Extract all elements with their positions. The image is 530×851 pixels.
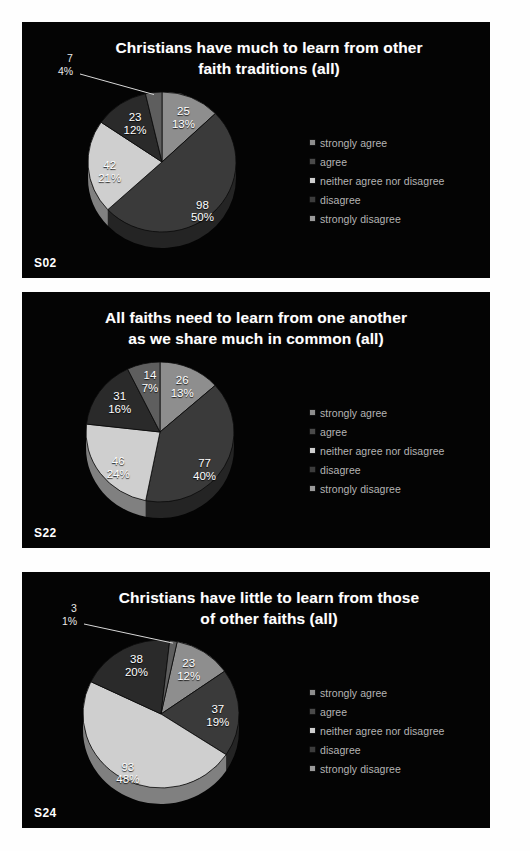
pie-label-percent: 12% bbox=[171, 670, 207, 683]
legend-item-agree[interactable]: agree bbox=[310, 152, 444, 171]
pie-label-percent: 12% bbox=[117, 124, 153, 137]
pie-label-percent: 16% bbox=[102, 403, 138, 416]
legend-item-neither[interactable]: neither agree nor disagree bbox=[310, 171, 444, 190]
slide-title-line-1: Christians have much to learn from other bbox=[48, 38, 490, 59]
legend-item-strongly-agree[interactable]: strongly agree bbox=[310, 133, 444, 152]
slide-id-badge: S02 bbox=[34, 256, 57, 270]
pie-label-count: 26 bbox=[164, 374, 200, 387]
legend-label: neither agree nor disagree bbox=[320, 725, 444, 737]
legend-item-neither[interactable]: neither agree nor disagree bbox=[310, 721, 444, 740]
legend-item-neither[interactable]: neither agree nor disagree bbox=[310, 441, 444, 460]
legend-item-strongly-disagree[interactable]: strongly disagree bbox=[310, 759, 444, 778]
legend-swatch-strongly-disagree-icon bbox=[310, 486, 315, 491]
pie-label-percent: 21% bbox=[92, 172, 128, 185]
pie-label-percent: 50% bbox=[184, 211, 220, 224]
pie-label-count: 38 bbox=[118, 653, 154, 666]
pie-callout-count: 7 bbox=[58, 52, 73, 65]
legend-label: strongly disagree bbox=[320, 213, 401, 225]
pie-label-percent: 24% bbox=[100, 468, 136, 481]
pie-data-label-strongly-disagree: 147% bbox=[132, 369, 168, 395]
pie-callout-percent: 1% bbox=[62, 615, 77, 627]
pie-label-count: 98 bbox=[184, 199, 220, 212]
legend-item-disagree[interactable]: disagree bbox=[310, 460, 444, 479]
pie-label-percent: 40% bbox=[187, 470, 223, 483]
pie-label-percent: 13% bbox=[165, 118, 201, 131]
pie-label-count: 77 bbox=[187, 457, 223, 470]
pie-data-label-disagree: 2312% bbox=[117, 111, 153, 137]
pie-label-percent: 13% bbox=[164, 387, 200, 400]
pie-data-label-strongly-agree: 2513% bbox=[165, 105, 201, 131]
pie-label-count: 46 bbox=[100, 455, 136, 468]
slide-id-badge: S24 bbox=[34, 806, 57, 820]
pie-label-percent: 48% bbox=[110, 773, 146, 786]
pie-label-count: 37 bbox=[200, 703, 236, 716]
legend-label: strongly agree bbox=[320, 407, 387, 419]
slide-title-line-1: Christians have little to learn from tho… bbox=[48, 588, 490, 609]
legend-item-disagree[interactable]: disagree bbox=[310, 740, 444, 759]
legend-label: strongly agree bbox=[320, 687, 387, 699]
pie-label-count: 93 bbox=[110, 761, 146, 774]
legend-item-strongly-agree[interactable]: strongly agree bbox=[310, 403, 444, 422]
slide-id-badge: S22 bbox=[34, 526, 57, 540]
legend-swatch-strongly-agree-icon bbox=[310, 690, 315, 695]
legend-s24: strongly agree agree neither agree nor d… bbox=[310, 683, 444, 778]
pie-data-label-agree: 7740% bbox=[187, 457, 223, 483]
legend-swatch-disagree-icon bbox=[310, 467, 315, 472]
legend-item-agree[interactable]: agree bbox=[310, 702, 444, 721]
pie-callout-label-strongly-disagree: 31% bbox=[62, 602, 77, 627]
pie-label-percent: 20% bbox=[118, 666, 154, 679]
legend-swatch-disagree-icon bbox=[310, 747, 315, 752]
pie-data-label-neither-agree-nor-disagree: 4624% bbox=[100, 455, 136, 481]
legend-s02: strongly agree agree neither agree nor d… bbox=[310, 133, 444, 228]
legend-swatch-neither-icon bbox=[310, 728, 315, 733]
legend-item-strongly-disagree[interactable]: strongly disagree bbox=[310, 479, 444, 498]
legend-item-disagree[interactable]: disagree bbox=[310, 190, 444, 209]
legend-swatch-strongly-disagree-icon bbox=[310, 216, 315, 221]
legend-swatch-strongly-disagree-icon bbox=[310, 766, 315, 771]
legend-s22: strongly agree agree neither agree nor d… bbox=[310, 403, 444, 498]
legend-swatch-strongly-agree-icon bbox=[310, 140, 315, 145]
legend-swatch-neither-icon bbox=[310, 178, 315, 183]
legend-label: strongly disagree bbox=[320, 763, 401, 775]
slide-title-line-2: as we share much in common (all) bbox=[22, 329, 490, 350]
pie-callout-count: 3 bbox=[62, 602, 77, 615]
pie-data-label-strongly-agree: 2613% bbox=[164, 374, 200, 400]
legend-swatch-strongly-agree-icon bbox=[310, 410, 315, 415]
pie-callout-leader-line bbox=[82, 622, 175, 645]
pie-label-percent: 7% bbox=[132, 382, 168, 395]
slide-deck-page: Christians have much to learn from other… bbox=[0, 0, 530, 851]
pie-data-label-agree: 3719% bbox=[200, 703, 236, 729]
pie-data-label-neither-agree-nor-disagree: 4221% bbox=[92, 159, 128, 185]
legend-swatch-disagree-icon bbox=[310, 197, 315, 202]
legend-item-agree[interactable]: agree bbox=[310, 422, 444, 441]
pie-label-count: 23 bbox=[171, 657, 207, 670]
legend-swatch-agree-icon bbox=[310, 429, 315, 434]
legend-swatch-agree-icon bbox=[310, 709, 315, 714]
pie-data-label-agree: 9850% bbox=[184, 199, 220, 225]
pie-callout-label-strongly-disagree: 74% bbox=[58, 52, 73, 77]
pie-label-count: 23 bbox=[117, 111, 153, 124]
slide-title: All faiths need to learn from one anothe… bbox=[22, 308, 490, 350]
legend-label: strongly agree bbox=[320, 137, 387, 149]
pie-data-label-disagree: 3820% bbox=[118, 653, 154, 679]
legend-label: agree bbox=[320, 156, 347, 168]
pie-label-percent: 19% bbox=[200, 716, 236, 729]
pie-callout-leader-line bbox=[78, 72, 156, 97]
slide-title-line-1: All faiths need to learn from one anothe… bbox=[22, 308, 490, 329]
legend-label: disagree bbox=[320, 194, 361, 206]
legend-label: agree bbox=[320, 426, 347, 438]
legend-swatch-agree-icon bbox=[310, 159, 315, 164]
legend-item-strongly-disagree[interactable]: strongly disagree bbox=[310, 209, 444, 228]
legend-label: neither agree nor disagree bbox=[320, 175, 444, 187]
pie-data-label-neither-agree-nor-disagree: 9348% bbox=[110, 761, 146, 787]
legend-label: neither agree nor disagree bbox=[320, 445, 444, 457]
pie-label-count: 42 bbox=[92, 159, 128, 172]
pie-data-label-strongly-agree: 2312% bbox=[171, 657, 207, 683]
legend-label: disagree bbox=[320, 744, 361, 756]
pie-label-count: 14 bbox=[132, 369, 168, 382]
pie-label-count: 25 bbox=[165, 105, 201, 118]
legend-item-strongly-agree[interactable]: strongly agree bbox=[310, 683, 444, 702]
legend-label: agree bbox=[320, 706, 347, 718]
legend-label: disagree bbox=[320, 464, 361, 476]
legend-swatch-neither-icon bbox=[310, 448, 315, 453]
